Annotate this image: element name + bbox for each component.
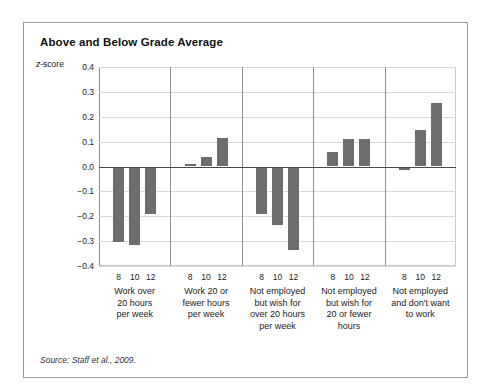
x-axis-group-label: Not employedand don't wantto work bbox=[381, 286, 459, 321]
gridline bbox=[99, 142, 456, 143]
bar bbox=[129, 167, 140, 245]
x-axis-tick-label: 10 bbox=[201, 272, 210, 282]
chart-plot-area: 0.40.30.20.10.0−0.1−0.2−0.3−0.481012Work… bbox=[99, 67, 456, 266]
x-axis-tick-label: 12 bbox=[146, 272, 155, 282]
y-axis-tick-label: 0.1 bbox=[82, 137, 94, 147]
gridline bbox=[99, 117, 456, 118]
x-axis-tick-label: 8 bbox=[331, 272, 336, 282]
x-axis-tick-label: 10 bbox=[416, 272, 425, 282]
x-axis-tick-label: 10 bbox=[344, 272, 353, 282]
y-axis-tick-label: 0.3 bbox=[82, 87, 94, 97]
bar bbox=[288, 167, 299, 250]
bar bbox=[343, 139, 354, 166]
bar bbox=[145, 167, 156, 214]
y-axis-tick-label: 0.0 bbox=[82, 162, 94, 172]
bar bbox=[327, 152, 338, 167]
y-axis-tick-label: −0.4 bbox=[77, 261, 94, 271]
y-axis-tick-label: 0.2 bbox=[82, 112, 94, 122]
x-axis-tick-label: 10 bbox=[273, 272, 282, 282]
x-axis-group-label: Work 20 orfewer hoursper week bbox=[167, 286, 245, 321]
figure-card: Above and Below Grade Average z-score 0.… bbox=[23, 22, 468, 378]
source-note: Source: Staff et al., 2009. bbox=[40, 355, 136, 365]
y-axis-tick-label: −0.2 bbox=[77, 211, 94, 221]
bar bbox=[272, 167, 283, 225]
gridline bbox=[99, 266, 456, 267]
gridline bbox=[99, 241, 456, 242]
zero-line bbox=[99, 167, 456, 168]
x-axis-group-label: Not employedbut wish for20 or fewerhours bbox=[310, 286, 388, 332]
y-axis-tick-label: 0.4 bbox=[82, 62, 94, 72]
bar bbox=[113, 167, 124, 243]
chart-title: Above and Below Grade Average bbox=[40, 36, 223, 48]
bar bbox=[217, 138, 228, 167]
bar bbox=[256, 167, 267, 214]
x-axis-group-label: Work over20 hoursper week bbox=[96, 286, 174, 321]
bar bbox=[431, 103, 442, 166]
x-axis-tick-label: 8 bbox=[188, 272, 193, 282]
bar bbox=[415, 130, 426, 166]
x-axis-tick-label: 12 bbox=[289, 272, 298, 282]
x-axis-tick-label: 10 bbox=[130, 272, 139, 282]
bar bbox=[359, 139, 370, 166]
x-axis-tick-label: 8 bbox=[402, 272, 407, 282]
bar bbox=[201, 157, 212, 167]
y-axis-tick-label: −0.3 bbox=[77, 236, 94, 246]
x-axis-tick-label: 8 bbox=[259, 272, 264, 282]
gridline bbox=[99, 92, 456, 93]
y-axis-title: z-score bbox=[36, 59, 64, 69]
x-axis-tick-label: 12 bbox=[360, 272, 369, 282]
x-axis-tick-label: 8 bbox=[116, 272, 121, 282]
y-axis-tick-label: −0.1 bbox=[77, 186, 94, 196]
x-axis-group-label: Not employedbut wish forover 20 hoursper… bbox=[239, 286, 317, 332]
gridline bbox=[99, 67, 456, 68]
x-axis-tick-label: 12 bbox=[217, 272, 226, 282]
x-axis-tick-label: 12 bbox=[432, 272, 441, 282]
